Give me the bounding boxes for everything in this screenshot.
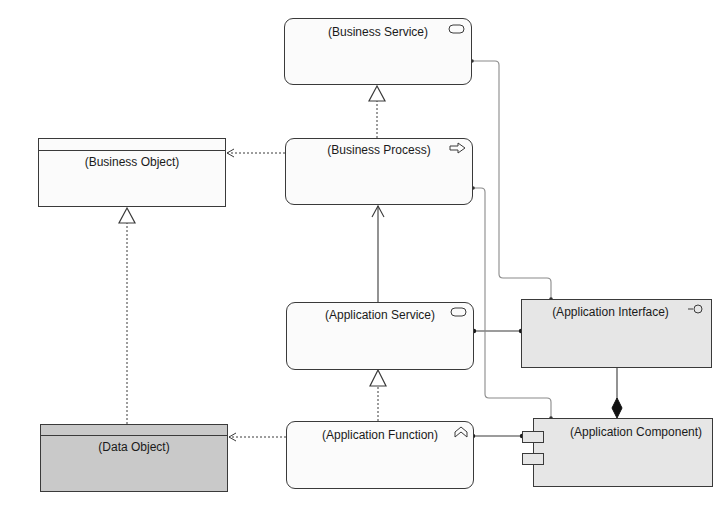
application-component-label: (Application Component) xyxy=(570,425,712,439)
component-port-bottom xyxy=(522,453,544,465)
component-port-top xyxy=(522,431,544,443)
service-icon xyxy=(450,307,468,317)
business-process-node[interactable]: (Business Process) xyxy=(285,138,473,205)
composition-component-interface[interactable] xyxy=(612,367,622,418)
application-service-label: (Application Service) xyxy=(287,308,473,322)
application-component-node[interactable]: (Application Component) xyxy=(533,418,713,487)
business-process-label: (Business Process) xyxy=(286,143,472,157)
data-object-node[interactable]: (Data Object) xyxy=(40,424,228,492)
assignment-appservice-to-interface[interactable] xyxy=(472,329,523,333)
diagram-canvas: (Business Service) (Business Process) (B… xyxy=(0,0,728,515)
function-chevron-icon xyxy=(454,426,468,438)
business-object-header xyxy=(39,139,225,151)
application-interface-label: (Application Interface) xyxy=(510,305,711,319)
application-function-label: (Application Function) xyxy=(287,428,473,442)
access-process-to-object[interactable] xyxy=(227,149,285,157)
realization-function-to-appservice[interactable] xyxy=(370,370,386,421)
data-object-header xyxy=(41,425,227,436)
business-service-node[interactable]: (Business Service) xyxy=(284,18,472,85)
realization-process-to-service[interactable] xyxy=(369,86,385,138)
business-service-label: (Business Service) xyxy=(285,25,471,39)
data-object-label: (Data Object) xyxy=(41,440,227,454)
application-service-node[interactable]: (Application Service) xyxy=(286,302,474,370)
business-object-label: (Business Object) xyxy=(39,155,225,169)
service-icon xyxy=(448,24,466,34)
realization-data-to-businessobject[interactable] xyxy=(119,208,135,424)
access-function-to-dataobject[interactable] xyxy=(229,433,286,441)
process-arrow-icon xyxy=(449,142,467,154)
assignment-function-to-component[interactable] xyxy=(471,434,524,438)
interface-lollipop-icon xyxy=(687,304,705,314)
application-function-node[interactable]: (Application Function) xyxy=(286,421,474,489)
business-object-node[interactable]: (Business Object) xyxy=(38,138,226,207)
serving-appservice-to-process[interactable] xyxy=(372,206,384,302)
application-interface-node[interactable]: (Application Interface) xyxy=(521,299,712,368)
association-businessservice-to-interface[interactable] xyxy=(470,59,553,301)
